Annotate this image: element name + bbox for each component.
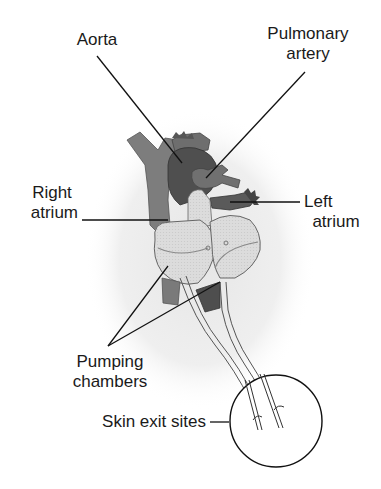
label-pumping-line1: Pumping xyxy=(62,352,158,372)
label-right-atrium-line2: atrium xyxy=(14,203,78,223)
label-left-atrium-line2: atrium xyxy=(302,212,370,232)
label-pulmonary-line2: artery xyxy=(252,44,364,64)
remnant-right xyxy=(162,278,180,305)
label-pulmonary-line1: Pulmonary xyxy=(252,24,364,44)
label-pumping-chambers: Pumping chambers xyxy=(62,352,158,392)
label-skin-exit-sites: Skin exit sites xyxy=(76,412,206,432)
label-right-atrium-line1: Right xyxy=(14,183,78,203)
label-aorta: Aorta xyxy=(62,30,132,50)
label-right-atrium: Right atrium xyxy=(14,183,78,223)
label-left-atrium-line1: Left xyxy=(302,192,370,212)
label-left-atrium: Left atrium xyxy=(302,192,370,232)
skin-exit-magnifier xyxy=(230,375,322,467)
label-pulmonary-artery: Pulmonary artery xyxy=(252,24,364,64)
label-pumping-line2: chambers xyxy=(62,372,158,392)
